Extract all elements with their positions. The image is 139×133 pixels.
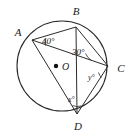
vertex-label-B: B — [73, 5, 80, 17]
vertex-label-A: A — [14, 26, 22, 38]
center-label-O: O — [62, 61, 69, 72]
angle-label-x: x° — [67, 95, 76, 104]
angle-label-30: 30° — [71, 47, 85, 57]
geometry-canvas: O A B C D 40° 30° y° x° — [0, 0, 139, 133]
angle-label-40: 40° — [42, 36, 55, 46]
geometry-diagram: O A B C D 40° 30° y° x° — [0, 0, 139, 133]
vertex-label-C: C — [117, 62, 125, 74]
vertex-label-D: D — [73, 120, 82, 132]
angle-arc-y — [99, 73, 102, 78]
center-point-dot — [54, 64, 58, 68]
chord-BD — [76, 27, 77, 114]
angle-label-y: y° — [87, 73, 96, 82]
